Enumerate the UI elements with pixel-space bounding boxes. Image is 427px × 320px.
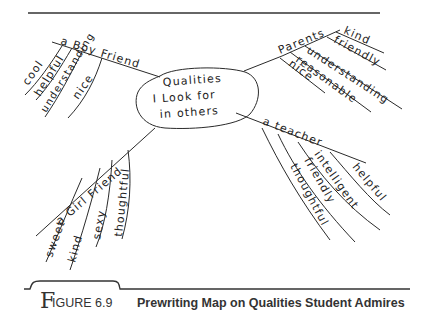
caption-number: IGURE 6.9	[52, 296, 112, 310]
branch-boyfriend: a Boy Friend cool helpful understanding …	[20, 30, 160, 118]
branch-line	[244, 56, 282, 71]
center-line-3: in others	[159, 104, 219, 121]
spoke-text: kind	[65, 233, 85, 264]
branch-parents: Parents kind friendly understanding reas…	[244, 24, 402, 112]
center-line-1: Qualities	[162, 72, 222, 89]
caption-title: Prewriting Map on Qualities Student Admi…	[137, 296, 405, 310]
figure-caption: F IGURE 6.9 Prewriting Map on Qualities …	[40, 288, 405, 313]
spoke-text: sexy	[90, 209, 108, 241]
center-line-2: I Look for	[152, 88, 216, 105]
spoke-text: nice	[70, 72, 97, 102]
branch-teacher: a teacher helpful intelligent friendly t…	[236, 113, 390, 242]
branch-girlfriend: a Girl Friend sweet kind sexy thoughtful	[36, 128, 155, 270]
caption-frame	[24, 281, 410, 289]
spoke-text: sweet	[43, 218, 68, 259]
center-bubble: Qualities I Look for in others	[136, 68, 258, 129]
prewriting-map: Qualities I Look for in others a Boy Fri…	[0, 0, 427, 320]
